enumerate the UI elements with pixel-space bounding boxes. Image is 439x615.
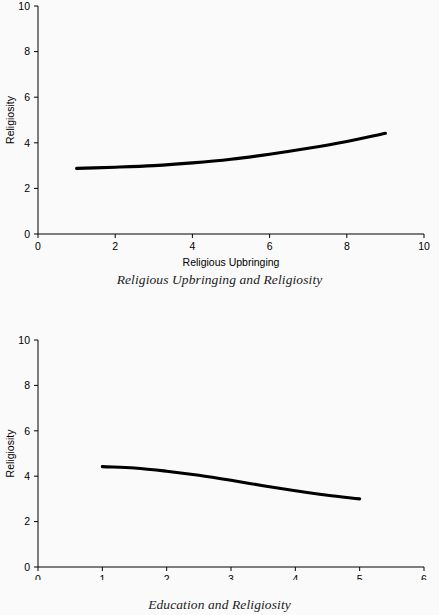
figure-1-caption: Religious Upbringing and Religiosity	[0, 272, 439, 288]
figure-education: 02468100123456EducationReligiosity	[0, 305, 439, 615]
y-tick-label: 8	[24, 45, 30, 57]
x-tick-label: 4	[292, 573, 298, 580]
x-tick-label: 8	[344, 240, 350, 252]
x-tick-label: 1	[99, 573, 105, 580]
y-tick-label: 6	[24, 425, 30, 437]
y-tick-label: 0	[24, 561, 30, 573]
x-tick-label: 10	[418, 240, 430, 252]
x-tick-label: 6	[421, 573, 427, 580]
x-axis-title: Religious Upbringing	[183, 256, 280, 268]
data-curve	[77, 133, 386, 168]
figure-2-caption: Education and Religiosity	[0, 597, 439, 613]
y-tick-label: 10	[18, 334, 30, 346]
y-tick-label: 10	[18, 0, 30, 12]
y-tick-label: 2	[24, 515, 30, 527]
x-tick-label: 0	[35, 240, 41, 252]
y-tick-label: 4	[24, 137, 30, 149]
chart-religious-upbringing: 02468100246810Religious UpbringingReligi…	[0, 0, 439, 270]
x-tick-label: 6	[267, 240, 273, 252]
y-tick-label: 2	[24, 182, 30, 194]
y-axis-title: Religiosity	[4, 95, 16, 144]
y-tick-label: 0	[24, 228, 30, 240]
y-tick-label: 6	[24, 91, 30, 103]
axis-spines	[38, 6, 424, 234]
y-tick-label: 4	[24, 470, 30, 482]
x-tick-label: 4	[189, 240, 195, 252]
y-tick-label: 8	[24, 379, 30, 391]
x-tick-label: 5	[357, 573, 363, 580]
figure-religious-upbringing: 02468100246810Religious UpbringingReligi…	[0, 0, 439, 305]
chart-education: 02468100123456EducationReligiosity	[0, 305, 439, 580]
data-curve	[102, 467, 359, 499]
x-tick-label: 0	[35, 573, 41, 580]
x-tick-label: 2	[112, 240, 118, 252]
axis-spines	[38, 340, 424, 567]
x-tick-label: 2	[164, 573, 170, 580]
y-axis-title: Religiosity	[4, 429, 16, 478]
x-tick-label: 3	[228, 573, 234, 580]
